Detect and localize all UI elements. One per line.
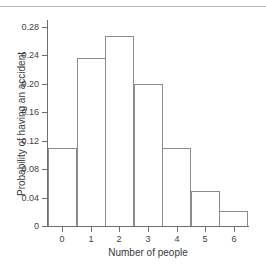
histogram-bar	[162, 148, 191, 226]
x-axis-title: Number of people	[48, 247, 248, 259]
y-tick-mark	[42, 27, 47, 28]
histogram-bar	[191, 191, 220, 226]
y-tick-mark	[42, 84, 47, 85]
x-tick-label: 1	[81, 234, 101, 244]
x-tick-mark	[91, 227, 92, 232]
x-tick-mark	[234, 227, 235, 232]
x-tick-label: 5	[195, 234, 215, 244]
x-tick-label: 2	[109, 234, 129, 244]
top-divider-rule	[0, 6, 266, 7]
x-tick-label: 3	[138, 234, 158, 244]
y-tick-mark	[42, 141, 47, 142]
histogram-bar	[48, 148, 77, 226]
x-tick-mark	[148, 227, 149, 232]
histogram-bar	[134, 84, 163, 226]
histogram-bar	[219, 211, 248, 226]
x-tick-label: 4	[167, 234, 187, 244]
x-tick-label: 6	[224, 234, 244, 244]
x-tick-mark	[62, 227, 63, 232]
histogram-bar	[105, 36, 134, 226]
histogram-figure: 00.040.080.120.160.200.240.28 0123456 Nu…	[0, 0, 266, 268]
x-tick-mark	[119, 227, 120, 232]
x-tick-mark	[177, 227, 178, 232]
y-tick-mark	[42, 226, 47, 227]
y-tick-mark	[42, 55, 47, 56]
y-tick-mark	[42, 198, 47, 199]
y-tick-mark	[42, 112, 47, 113]
histogram-bar	[77, 58, 106, 226]
y-axis-title: Probability of having an accident	[16, 14, 28, 234]
y-tick-mark	[42, 169, 47, 170]
x-tick-label: 0	[52, 234, 72, 244]
y-tick-label: 0	[34, 222, 39, 231]
x-tick-mark	[205, 227, 206, 232]
